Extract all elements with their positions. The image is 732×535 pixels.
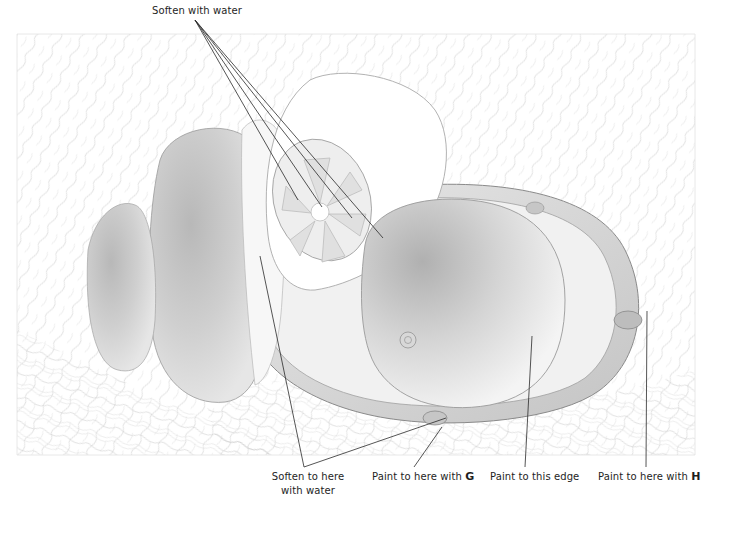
annotation-paint-to-this-edge: Paint to this edge [490,470,579,484]
round-fruit [361,199,565,408]
annotation-soften-with-water: Soften with water [152,4,242,18]
annotation-text: Paint to here with [598,471,691,482]
annotation-text: Paint to here with [372,471,465,482]
annotation-line-2: with water [266,484,350,498]
annotation-line-1: Soften to here [266,470,350,484]
illustration [0,0,732,535]
colour-key-h: H [691,470,700,483]
annotation-paint-to-here-h: Paint to here with H [598,470,700,484]
colour-key-g: G [465,470,474,483]
annotation-soften-to-here: Soften to here with water [266,470,350,498]
annotation-paint-to-here-g: Paint to here with G [372,470,474,484]
